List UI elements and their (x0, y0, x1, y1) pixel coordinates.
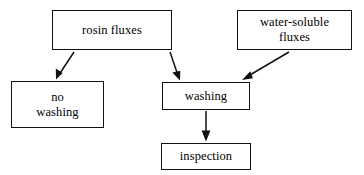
node-water-soluble-fluxes: water-soluble fluxes (237, 10, 352, 50)
node-washing: washing (162, 82, 250, 110)
node-rosin-fluxes-label: rosin fluxes (82, 23, 142, 38)
node-inspection: inspection (161, 143, 251, 170)
arrow-rosin-to-no-washing (56, 52, 74, 80)
node-inspection-label: inspection (180, 149, 232, 164)
arrow-water-soluble-to-washing (242, 52, 289, 80)
node-washing-label: washing (185, 89, 227, 104)
flowchart-diagram: rosin fluxes water-soluble fluxes no was… (0, 0, 364, 175)
node-no-washing: no washing (11, 81, 104, 128)
node-rosin-fluxes: rosin fluxes (52, 10, 172, 50)
arrow-washing-to-inspection (202, 111, 211, 142)
node-water-soluble-fluxes-label: water-soluble fluxes (260, 15, 329, 45)
arrow-rosin-to-washing (170, 52, 180, 81)
node-no-washing-label: no washing (36, 90, 78, 120)
